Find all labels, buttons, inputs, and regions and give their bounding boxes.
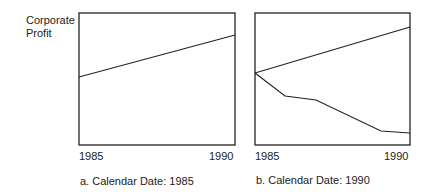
chart-b-caption: b. Calendar Date: 1990 <box>256 174 370 186</box>
chart-b <box>255 13 410 145</box>
chart-a-frame <box>79 13 235 145</box>
chart-a-projection-line <box>79 35 235 77</box>
chart-b-actual-line <box>255 73 410 133</box>
chart-b-frame <box>255 13 410 145</box>
chart-a <box>79 13 235 145</box>
chart-a-tick-1985: 1985 <box>79 150 103 162</box>
chart-a-caption: a. Calendar Date: 1985 <box>80 175 194 187</box>
chart-a-tick-1990: 1990 <box>209 150 233 162</box>
chart-b-projection-line <box>255 27 410 73</box>
chart-b-tick-1985: 1985 <box>255 150 279 162</box>
chart-b-tick-1990: 1990 <box>384 150 408 162</box>
charts-canvas <box>0 0 430 194</box>
